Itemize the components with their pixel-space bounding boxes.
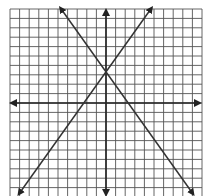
axes (13, 12, 198, 193)
line-increasing (20, 9, 151, 193)
line-decreasing (61, 9, 192, 193)
coordinate-plane (0, 0, 204, 196)
